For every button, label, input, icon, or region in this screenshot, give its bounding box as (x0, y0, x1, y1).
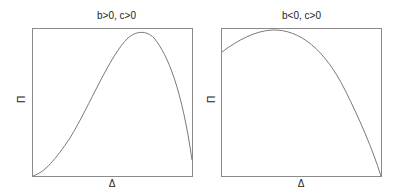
plots-canvas (0, 0, 402, 196)
curve-left (33, 32, 192, 176)
plot-frame-left (33, 29, 193, 177)
curve-right (222, 30, 381, 176)
plot-frame-right (222, 29, 382, 177)
